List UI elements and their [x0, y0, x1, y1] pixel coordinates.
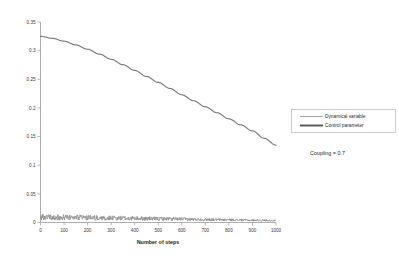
coupling-annotation: Coupling = 0.7	[310, 150, 345, 156]
y-tick-label: 0.3	[29, 48, 36, 53]
y-axis-ticks: 00.050.10.150.20.250.30.35	[27, 20, 41, 226]
x-tick-label: 1000	[271, 228, 282, 233]
data-series-group	[41, 36, 277, 221]
legend-item-control-parameter[interactable]: Control parameter	[300, 123, 364, 128]
y-tick-label: 0	[33, 220, 36, 225]
x-axis-title: Number of steps	[137, 239, 180, 245]
y-tick-label: 0.1	[29, 163, 36, 168]
series-line-control-parameter	[41, 36, 277, 145]
legend-box	[292, 110, 396, 133]
y-tick-label: 0.05	[27, 192, 36, 197]
y-tick-label: 0.25	[27, 77, 36, 82]
x-tick-label: 300	[107, 228, 115, 233]
x-axis-ticks: 01002003004005006007008009001000	[39, 223, 281, 233]
x-tick-label: 0	[39, 228, 42, 233]
series-line-dynamical-variable	[41, 214, 276, 221]
y-tick-label: 0.15	[27, 134, 36, 139]
x-tick-label: 800	[225, 228, 233, 233]
y-tick-label: 0.35	[27, 20, 36, 25]
chart-canvas: 00.050.10.150.20.250.30.35 0100200300400…	[0, 0, 399, 259]
legend-label-dynamical-variable: Dynamical variable	[325, 114, 366, 119]
chart-figure: 00.050.10.150.20.250.30.35 0100200300400…	[0, 0, 399, 259]
legend-item-dynamical-variable[interactable]: Dynamical variable	[300, 114, 366, 119]
x-tick-label: 100	[60, 228, 68, 233]
x-tick-label: 500	[154, 228, 162, 233]
x-tick-label: 400	[131, 228, 139, 233]
legend: Dynamical variable Control parameter	[292, 110, 396, 133]
x-tick-label: 200	[84, 228, 92, 233]
x-tick-label: 900	[249, 228, 257, 233]
x-tick-label: 600	[178, 228, 186, 233]
y-tick-label: 0.2	[29, 106, 36, 111]
legend-label-control-parameter: Control parameter	[325, 123, 364, 128]
axis-group	[41, 22, 277, 223]
x-tick-label: 700	[202, 228, 210, 233]
